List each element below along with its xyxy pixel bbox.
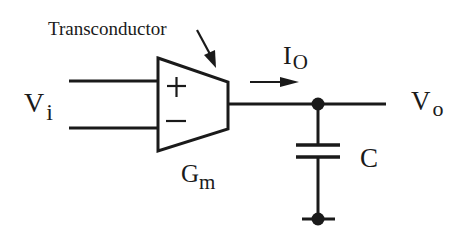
- capacitor-label: C: [360, 143, 378, 173]
- gm-label: Gm: [181, 160, 215, 194]
- pointer-arrow-shaft: [197, 30, 211, 56]
- vin-label: Vi: [24, 87, 53, 125]
- transconductor-symbol: [158, 58, 228, 151]
- io-label: IO: [283, 41, 308, 74]
- vo-label: Vo: [411, 86, 444, 121]
- pointer-arrow-head: [204, 50, 216, 68]
- io-arrow-head: [280, 77, 299, 87]
- ground-dot: [312, 213, 325, 226]
- circuit-diagram: Transconductor Vi Gm IO Vo C: [0, 0, 467, 239]
- transconductor-label: Transconductor: [48, 18, 167, 39]
